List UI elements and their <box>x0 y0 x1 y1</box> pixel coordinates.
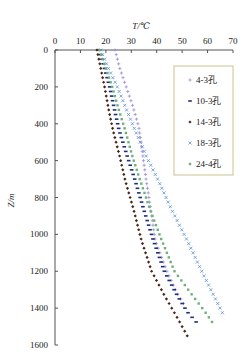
diamond-marker <box>142 247 145 250</box>
diamond-marker <box>119 159 122 162</box>
square-marker <box>130 150 132 152</box>
square-marker <box>136 169 138 171</box>
plus-marker <box>134 113 137 116</box>
diamond-marker <box>178 320 181 323</box>
diamond-marker <box>131 205 134 208</box>
dash-marker <box>140 201 144 203</box>
cross-marker <box>200 270 203 273</box>
square-marker <box>146 201 148 203</box>
square-marker <box>171 265 173 267</box>
square-marker <box>142 187 144 189</box>
diamond-marker <box>127 191 130 194</box>
square-marker <box>133 159 135 161</box>
dash-marker <box>138 197 142 199</box>
diamond-marker <box>102 81 105 84</box>
cross-marker <box>194 256 197 259</box>
square-marker <box>112 90 114 92</box>
dash-marker <box>118 132 122 134</box>
cross-marker <box>221 311 224 314</box>
cross-marker <box>209 288 212 291</box>
legend-label: 24-4孔 <box>196 159 222 169</box>
square-marker <box>151 215 153 217</box>
x-tick-label: 20 <box>101 36 111 46</box>
dash-marker <box>153 243 157 245</box>
cross-marker <box>216 302 219 305</box>
square-marker <box>180 279 182 281</box>
dash-marker <box>186 312 190 314</box>
cross-marker <box>116 85 119 88</box>
plus-marker <box>125 85 128 88</box>
cross-marker <box>107 67 110 70</box>
plus-marker <box>143 168 146 171</box>
diamond-marker <box>122 173 125 176</box>
legend-label: 14-3孔 <box>196 117 222 127</box>
square-marker <box>98 49 100 51</box>
cross-marker <box>109 72 112 75</box>
x-tick-label: 0 <box>53 36 58 46</box>
y-tick-label: 1400 <box>30 303 49 313</box>
cross-marker <box>158 182 161 185</box>
dash-marker <box>141 206 145 208</box>
dash-marker <box>142 211 146 213</box>
square-marker <box>208 316 210 318</box>
square-marker <box>140 182 142 184</box>
dash-marker <box>170 284 174 286</box>
diamond-marker <box>134 214 137 217</box>
diamond-marker <box>121 168 124 171</box>
plus-marker <box>115 53 118 56</box>
diamond-marker <box>129 196 132 199</box>
cross-marker <box>180 228 183 231</box>
diamond-marker <box>120 164 123 167</box>
dash-marker <box>127 160 131 162</box>
dash-marker <box>108 86 112 88</box>
square-marker <box>190 293 192 295</box>
y-tick-label: 1000 <box>30 229 49 239</box>
diamond-marker <box>152 274 155 277</box>
dash-marker <box>111 100 115 102</box>
cross-marker <box>178 224 181 227</box>
square-marker <box>106 72 108 74</box>
dash-marker <box>116 123 120 125</box>
square-marker <box>125 132 127 134</box>
diamond-marker <box>96 53 99 56</box>
plus-marker <box>123 81 126 84</box>
plus-marker <box>141 154 144 157</box>
dash-marker <box>137 192 141 194</box>
cross-marker <box>173 214 176 217</box>
cross-marker <box>160 187 163 190</box>
square-marker <box>114 95 116 97</box>
diamond-marker <box>150 270 153 273</box>
y-tick-label: 1200 <box>30 266 49 276</box>
square-marker <box>204 312 206 314</box>
diamond-marker <box>141 242 144 245</box>
x-tick-label: 40 <box>152 36 162 46</box>
diamond-marker <box>147 260 150 263</box>
square-marker <box>126 136 128 138</box>
legend: 4-3孔10-3孔14-3孔18-3孔24-4孔 <box>174 66 233 175</box>
cross-marker <box>214 297 217 300</box>
diamond-marker <box>105 99 108 102</box>
square-marker <box>108 76 110 78</box>
diamond-marker <box>101 76 104 79</box>
dash-marker <box>121 141 125 143</box>
square-marker <box>137 173 139 175</box>
square-marker <box>162 242 164 244</box>
square-marker <box>115 100 117 102</box>
plus-marker <box>142 159 145 162</box>
diamond-marker <box>126 187 129 190</box>
dash-marker <box>136 187 140 189</box>
square-marker <box>122 123 124 125</box>
square-marker <box>109 81 111 83</box>
diamond-marker <box>138 233 141 236</box>
cross-marker <box>149 164 152 167</box>
dash-marker <box>131 174 135 176</box>
square-marker <box>173 270 175 272</box>
diamond-marker <box>155 279 158 282</box>
dash-marker <box>172 289 176 291</box>
diamond-marker <box>181 325 184 328</box>
square-marker <box>150 210 152 212</box>
plus-marker <box>146 187 149 190</box>
square-marker <box>187 288 189 290</box>
diamond-marker <box>173 311 176 314</box>
cross-marker <box>135 131 138 134</box>
